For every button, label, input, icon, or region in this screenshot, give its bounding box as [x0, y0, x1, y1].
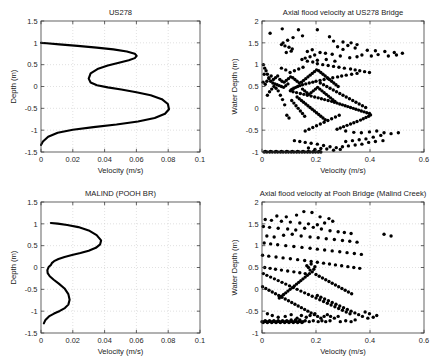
- data-point: [305, 316, 308, 319]
- data-point: [299, 109, 302, 112]
- data-point: [318, 298, 321, 301]
- data-point: [340, 287, 343, 290]
- y-tick-label: 1.5: [27, 17, 37, 26]
- data-point: [341, 145, 344, 148]
- data-point: [331, 249, 334, 252]
- data-point: [348, 56, 351, 59]
- data-point: [312, 150, 315, 153]
- data-point: [336, 45, 339, 48]
- data-point: [328, 87, 331, 90]
- data-point: [289, 220, 292, 223]
- data-point: [335, 128, 338, 131]
- data-point: [280, 281, 283, 284]
- y-tick-label: 0.5: [27, 60, 37, 69]
- data-point: [298, 221, 301, 224]
- data-point: [280, 295, 283, 298]
- x-tick-label: 0.02: [66, 155, 80, 164]
- data-point: [286, 269, 289, 272]
- data-point: [340, 264, 343, 267]
- data-point: [350, 292, 353, 295]
- data-point: [274, 268, 277, 271]
- data-point: [334, 263, 337, 266]
- data-point: [331, 52, 334, 55]
- data-point: [316, 96, 319, 99]
- data-point: [327, 217, 330, 220]
- data-point: [283, 44, 286, 47]
- data-point: [276, 243, 279, 246]
- data-point: [289, 257, 292, 260]
- data-point: [309, 262, 312, 265]
- data-point: [327, 280, 330, 283]
- x-axis-label: Velocity (m/s): [98, 166, 144, 175]
- data-point: [302, 210, 305, 213]
- data-point: [339, 320, 342, 323]
- data-point: [286, 39, 289, 42]
- chart-malind-scatter: 00.20.40.6-1-0.500.511.52Axial flood vel…: [219, 181, 438, 363]
- data-point: [348, 312, 351, 315]
- data-point: [301, 34, 304, 37]
- data-point: [264, 218, 267, 221]
- data-point: [292, 245, 295, 248]
- data-point: [325, 147, 328, 150]
- data-point: [322, 261, 325, 264]
- data-point: [296, 150, 299, 153]
- data-point: [285, 114, 288, 117]
- data-point: [307, 150, 310, 153]
- y-tick-label: 0.5: [248, 263, 258, 272]
- data-point: [316, 223, 319, 226]
- data-point: [350, 73, 353, 76]
- data-point: [316, 247, 319, 250]
- data-point: [340, 74, 343, 77]
- y-tick-label: -1: [31, 307, 38, 316]
- data-point: [293, 139, 296, 142]
- data-point: [328, 35, 331, 38]
- data-point: [325, 237, 328, 240]
- data-point: [298, 271, 301, 274]
- data-point: [277, 89, 280, 92]
- data-point: [267, 289, 270, 292]
- data-point: [367, 141, 370, 144]
- data-point: [292, 286, 295, 289]
- data-point: [355, 120, 358, 123]
- data-point: [395, 53, 398, 56]
- data-point: [318, 275, 321, 278]
- chart-title: MALIND (POOH BR): [85, 189, 156, 198]
- data-point: [308, 235, 311, 238]
- data-point: [266, 312, 269, 315]
- data-point: [308, 320, 311, 323]
- data-point: [269, 74, 272, 77]
- chart-title: Axial flood velocity at Pooh Bridge (Mal…: [260, 189, 427, 198]
- data-point: [352, 131, 355, 134]
- data-point: [287, 116, 290, 119]
- y-tick-label: 0.5: [248, 82, 258, 91]
- data-point: [270, 87, 273, 90]
- data-point: [338, 114, 341, 117]
- data-point: [300, 246, 303, 249]
- data-point: [261, 285, 264, 288]
- data-point: [343, 66, 346, 69]
- data-point: [374, 49, 377, 52]
- data-point: [389, 132, 392, 135]
- data-point: [308, 247, 311, 250]
- panel-malind-scatter: 00.20.40.6-1-0.500.511.52Axial flood vel…: [219, 181, 438, 363]
- x-tick-label: 0: [260, 336, 264, 345]
- data-point: [286, 82, 289, 85]
- data-point: [343, 289, 346, 292]
- data-point: [318, 215, 321, 218]
- data-point: [346, 44, 349, 47]
- data-point: [347, 290, 350, 293]
- data-point: [296, 107, 299, 110]
- data-point: [344, 319, 347, 322]
- data-point: [311, 126, 314, 129]
- data-point: [351, 99, 354, 102]
- data-point: [308, 81, 311, 84]
- data-point: [303, 308, 306, 311]
- data-point: [268, 267, 271, 270]
- data-point: [280, 66, 283, 69]
- data-point: [271, 314, 274, 317]
- data-point: [303, 291, 306, 294]
- data-point: [332, 88, 335, 91]
- data-point: [333, 100, 336, 103]
- data-point: [274, 292, 277, 295]
- data-point: [325, 85, 328, 88]
